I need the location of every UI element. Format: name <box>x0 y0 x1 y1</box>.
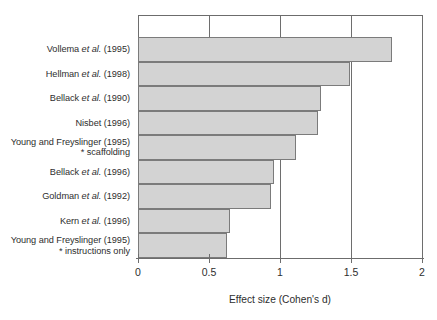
bar <box>138 160 274 185</box>
gridline-0.5 <box>209 15 210 37</box>
bar <box>138 233 227 258</box>
x-tick <box>422 254 423 263</box>
x-tick-label: 1 <box>277 266 283 278</box>
category-label: Goldman et al. (1992) <box>0 191 130 202</box>
category-label: Vollema et al. (1995) <box>0 44 130 55</box>
category-label: Bellack et al. (1996) <box>0 167 130 178</box>
x-tick-label: 1.5 <box>344 266 359 278</box>
category-label: Kern et al. (1996) <box>0 216 130 227</box>
bar <box>138 86 321 111</box>
category-label: Young and Freyslinger (1995)* scaffoldin… <box>0 137 130 158</box>
plot-top-border <box>138 15 422 16</box>
x-tick-label: 2 <box>419 266 425 278</box>
effect-size-bar-chart: Vollema et al. (1995)Hellman et al. (199… <box>0 0 437 320</box>
category-label: Bellack et al. (1990) <box>0 93 130 104</box>
x-tick-label: 0.5 <box>202 266 217 278</box>
x-tick <box>280 254 281 263</box>
x-tick <box>138 254 139 263</box>
x-axis-title: Effect size (Cohen's d) <box>138 294 422 305</box>
category-label: Nisbet (1996) <box>0 118 130 129</box>
category-label-column: Vollema et al. (1995)Hellman et al. (199… <box>0 37 134 258</box>
bar <box>138 37 392 62</box>
category-label: Young and Freyslinger (1995)* instructio… <box>0 235 130 256</box>
x-tick <box>351 254 352 263</box>
x-tick <box>209 254 210 263</box>
gridline-2 <box>422 15 423 258</box>
category-label: Hellman et al. (1998) <box>0 69 130 80</box>
gridline-0 <box>138 15 139 37</box>
x-tick-label: 0 <box>135 266 141 278</box>
bar <box>138 209 230 234</box>
bar-series <box>138 37 422 258</box>
bar <box>138 135 296 160</box>
bar <box>138 62 350 87</box>
bar <box>138 111 318 136</box>
bar <box>138 184 271 209</box>
